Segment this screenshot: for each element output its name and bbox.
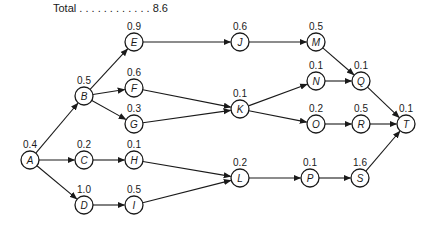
node-K: K0.1 — [231, 88, 249, 118]
node-label: B — [81, 91, 88, 102]
node-label: Q — [357, 76, 365, 87]
node-S: S1.6 — [351, 157, 369, 187]
node-value: 0.6 — [233, 21, 247, 32]
node-label: I — [133, 200, 136, 211]
edge-B-F — [93, 90, 125, 95]
node-value: 0.5 — [354, 103, 368, 114]
nodes-layer: A0.4B0.5C0.2D1.0E0.9F0.6G0.3H0.1I0.5J0.6… — [21, 21, 415, 214]
node-label: P — [307, 173, 314, 184]
node-value: 0.1 — [303, 157, 317, 168]
node-value: 0.2 — [77, 139, 91, 150]
node-H: H0.1 — [125, 139, 143, 169]
edge-B-G — [92, 100, 126, 119]
node-B: B0.5 — [75, 75, 93, 105]
node-P: P0.1 — [301, 157, 319, 187]
node-value: 0.5 — [77, 75, 91, 86]
node-value: 0.4 — [23, 139, 37, 150]
node-value: 0.2 — [309, 103, 323, 114]
network-diagram: A0.4B0.5C0.2D1.0E0.9F0.6G0.3H0.1I0.5J0.6… — [0, 0, 434, 230]
edge-Q-T — [368, 87, 400, 117]
node-value: 0.3 — [127, 103, 141, 114]
edge-G-K — [143, 110, 231, 122]
node-E: E0.9 — [125, 21, 143, 51]
edges-layer — [36, 42, 400, 205]
node-J: J0.6 — [231, 21, 249, 51]
edge-H-L — [143, 162, 231, 177]
node-value: 1.6 — [353, 157, 367, 168]
node-value: 0.1 — [127, 139, 141, 150]
edge-K-O — [249, 111, 307, 122]
node-label: J — [237, 37, 244, 48]
node-T: T0.1 — [397, 103, 415, 133]
node-label: A — [26, 155, 34, 166]
node-label: G — [130, 119, 138, 130]
node-label: D — [80, 200, 87, 211]
edge-A-D — [37, 166, 77, 199]
edge-M-Q — [323, 48, 354, 75]
node-value: 0.6 — [127, 67, 141, 78]
node-label: F — [131, 83, 138, 94]
node-D: D1.0 — [75, 184, 93, 214]
node-I: I0.5 — [125, 184, 143, 214]
node-label: C — [80, 155, 88, 166]
node-value: 0.1 — [354, 60, 368, 71]
node-label: S — [357, 173, 364, 184]
node-label: L — [237, 173, 243, 184]
node-A: A0.4 — [21, 139, 39, 169]
node-G: G0.3 — [125, 103, 143, 133]
node-label: N — [312, 76, 320, 87]
node-value: 0.9 — [127, 21, 141, 32]
edge-A-B — [36, 103, 78, 153]
node-N: N0.1 — [307, 60, 325, 90]
node-value: 0.2 — [233, 157, 247, 168]
node-label: R — [357, 119, 364, 130]
node-label: O — [312, 119, 320, 130]
node-label: E — [131, 37, 138, 48]
node-value: 0.1 — [309, 60, 323, 71]
node-O: O0.2 — [307, 103, 325, 133]
node-value: 1.0 — [77, 184, 91, 195]
node-value: 0.1 — [399, 103, 413, 114]
node-Q: Q0.1 — [352, 60, 370, 90]
edge-K-N — [248, 84, 307, 106]
edge-B-E — [90, 49, 127, 89]
node-C: C0.2 — [75, 139, 93, 169]
node-R: R0.5 — [352, 103, 370, 133]
edge-I-L — [143, 180, 231, 202]
node-value: 0.5 — [127, 184, 141, 195]
node-L: L0.2 — [231, 157, 249, 187]
node-value: 0.1 — [233, 88, 247, 99]
node-M: M0.5 — [307, 21, 325, 51]
edge-S-T — [366, 131, 400, 171]
node-label: H — [130, 155, 138, 166]
node-value: 0.5 — [309, 21, 323, 32]
edge-F-K — [143, 90, 231, 107]
node-label: T — [403, 119, 410, 130]
node-label: M — [312, 37, 321, 48]
node-F: F0.6 — [125, 67, 143, 97]
